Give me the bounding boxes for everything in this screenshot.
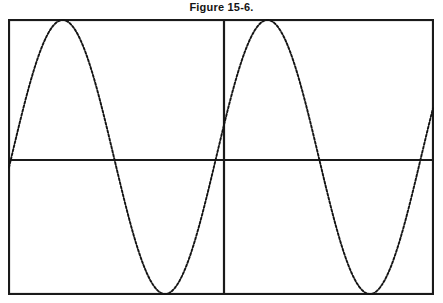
plot-frame	[9, 20, 433, 294]
sine-wave-plot	[8, 19, 434, 295]
figure-caption: Figure 15-6.	[0, 1, 443, 14]
plot-area	[8, 19, 434, 295]
figure-container: Figure 15-6.	[0, 0, 443, 303]
